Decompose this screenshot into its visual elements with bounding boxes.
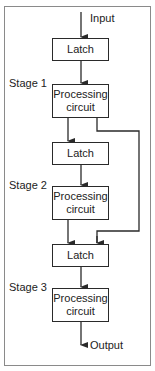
processing-circuit-1: Processing circuit	[52, 84, 109, 118]
stage-2-label: Stage 2	[9, 179, 47, 192]
circuit-3-line-1: Processing	[53, 292, 107, 305]
latch-1-label: Latch	[67, 43, 94, 56]
output-label: Output	[90, 339, 123, 352]
processing-circuit-2: Processing circuit	[52, 186, 109, 220]
input-label: Input	[90, 12, 114, 25]
latch-2-label: Latch	[67, 147, 94, 160]
circuit-2-line-2: circuit	[66, 203, 95, 216]
latch-1: Latch	[52, 38, 109, 61]
stage-3-label: Stage 3	[9, 281, 47, 294]
circuit-1-line-1: Processing	[53, 88, 107, 101]
processing-circuit-3: Processing circuit	[52, 288, 109, 322]
circuit-2-line-1: Processing	[53, 190, 107, 203]
latch-3: Latch	[52, 244, 109, 267]
circuit-1-line-2: circuit	[66, 101, 95, 114]
stage-1-label: Stage 1	[9, 77, 47, 90]
latch-2: Latch	[52, 142, 109, 165]
circuit-3-line-2: circuit	[66, 305, 95, 318]
bypass-wire	[97, 117, 139, 243]
latch-3-label: Latch	[67, 249, 94, 262]
